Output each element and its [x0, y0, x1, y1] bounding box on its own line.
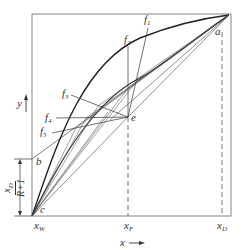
intercept-numerator: xD — [2, 181, 16, 195]
c-to-f1 — [32, 82, 136, 216]
a-to-f4 — [86, 15, 229, 118]
feed-label-f1: f1 — [144, 14, 151, 27]
feed-label-f4: f4 — [45, 112, 52, 125]
feed-line-f4 — [56, 117, 128, 118]
intercept-denominator: R+1 — [16, 179, 27, 197]
x-arrow-head-icon — [139, 241, 145, 245]
dim-arrow-up-icon — [18, 159, 22, 164]
c-to-f2 — [32, 88, 128, 216]
a-to-f3 — [98, 15, 229, 106]
y-axis-label: y — [17, 98, 22, 109]
y-arrow-head-icon — [24, 94, 28, 100]
distillation-xy-diagram — [0, 0, 244, 250]
tick-label-xw: xW — [34, 220, 45, 233]
tick-label-xd: xD — [217, 220, 227, 233]
point-label-c: c — [40, 204, 45, 215]
point-label-a: a — [215, 26, 221, 37]
c-to-f5 — [32, 128, 76, 216]
intercept-fraction-label: xD R+1 — [0, 176, 34, 200]
feed-label-f5: f5 — [40, 126, 47, 139]
line-a-e — [128, 15, 229, 117]
feed-line-f1 — [128, 28, 148, 117]
dim-arrow-down-icon — [18, 211, 22, 216]
feed-line-f3 — [71, 95, 128, 117]
tick-label-xf: xF — [124, 220, 133, 233]
x-axis-label: x — [120, 237, 125, 248]
point-label-e: e — [131, 112, 136, 123]
feed-label-f3: f3 — [62, 88, 69, 101]
feed-label-f2: f2 — [124, 34, 131, 47]
point-label-b: b — [36, 156, 42, 167]
